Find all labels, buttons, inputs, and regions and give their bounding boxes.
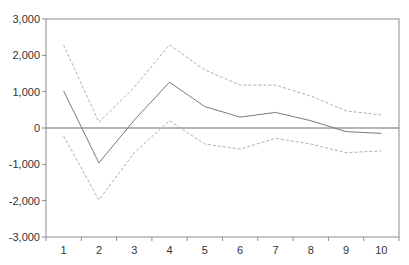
x-tick-label: 3: [131, 244, 137, 256]
line-chart: 3,0002,0001,0000-1,000-2,000-3,000 12345…: [0, 0, 409, 265]
y-tick-label: 2,000: [12, 49, 40, 61]
x-tick-label: 7: [272, 244, 278, 256]
y-tick-label: 3,000: [12, 13, 40, 25]
x-tick-label: 10: [375, 244, 387, 256]
series-line-response: [64, 82, 382, 163]
x-tick-label: 2: [96, 244, 102, 256]
y-tick-label: -1,000: [9, 158, 40, 170]
series-lines: [64, 45, 382, 200]
y-tick-label: -3,000: [9, 231, 40, 243]
y-axis: 3,0002,0001,0000-1,000-2,000-3,000: [9, 13, 46, 243]
y-tick-label: 0: [34, 122, 40, 134]
y-tick-label: 1,000: [12, 86, 40, 98]
x-tick-label: 5: [202, 244, 208, 256]
x-tick-label: 6: [237, 244, 243, 256]
y-tick-label: -2,000: [9, 195, 40, 207]
x-axis: 12345678910: [46, 237, 399, 256]
series-line-lower: [64, 121, 382, 200]
x-tick-label: 4: [166, 244, 172, 256]
x-tick-label: 8: [308, 244, 314, 256]
x-tick-label: 1: [61, 244, 67, 256]
series-line-upper: [64, 45, 382, 122]
x-tick-label: 9: [343, 244, 349, 256]
plot-frame: [46, 19, 399, 237]
